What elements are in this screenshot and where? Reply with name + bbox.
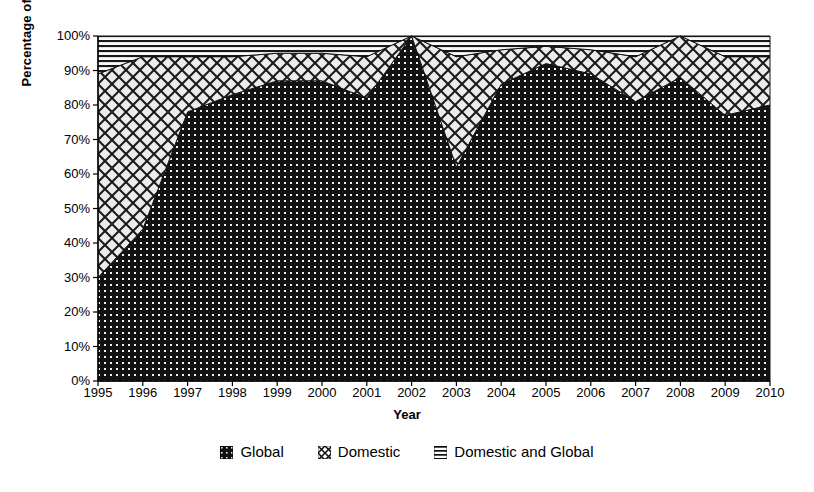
area-chart-plot bbox=[0, 0, 814, 492]
legend-swatch-global-icon bbox=[220, 445, 233, 458]
legend-entry-domestic-and-global: Domestic and Global bbox=[434, 443, 593, 460]
chart-container: Percentage of Actions Year 0%10%20%30%40… bbox=[0, 0, 814, 492]
legend-entry-global: Global bbox=[220, 443, 283, 460]
legend-swatch-domestic-and-global-icon bbox=[434, 445, 447, 458]
legend-label-global: Global bbox=[240, 443, 283, 460]
legend-entry-domestic: Domestic bbox=[318, 443, 401, 460]
chart-legend: Global Domestic Domestic and Global bbox=[0, 443, 814, 460]
legend-label-domestic: Domestic bbox=[338, 443, 401, 460]
legend-label-domestic-and-global: Domestic and Global bbox=[454, 443, 593, 460]
legend-swatch-domestic-icon bbox=[318, 445, 331, 458]
